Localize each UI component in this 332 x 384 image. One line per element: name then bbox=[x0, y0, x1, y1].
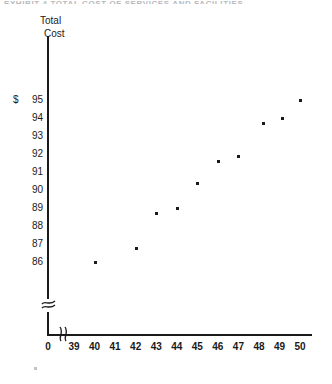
data-point bbox=[262, 122, 265, 125]
data-point bbox=[281, 117, 284, 120]
data-point bbox=[94, 261, 97, 264]
data-point bbox=[135, 247, 138, 250]
data-points-layer bbox=[0, 0, 332, 384]
data-point bbox=[299, 99, 302, 102]
data-point bbox=[155, 212, 158, 215]
data-point bbox=[176, 207, 179, 210]
data-point bbox=[237, 155, 240, 158]
scan-speck bbox=[34, 367, 37, 370]
data-point bbox=[217, 160, 220, 163]
data-point bbox=[196, 182, 199, 185]
scatter-chart-figure: EXHIBIT 4 TOTAL COST OF SERVICES AND FAC… bbox=[0, 0, 332, 384]
